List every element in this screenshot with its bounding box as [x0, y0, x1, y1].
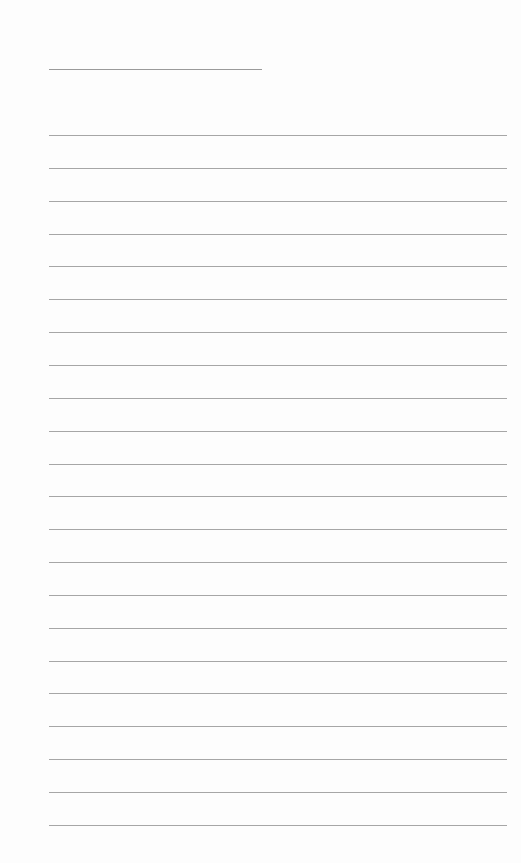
ruled-line	[49, 792, 507, 793]
ruled-line	[49, 496, 507, 497]
ruled-line	[49, 595, 507, 596]
ruled-line	[49, 266, 507, 267]
ruled-line	[49, 661, 507, 662]
ruled-line	[49, 464, 507, 465]
ruled-line	[49, 759, 507, 760]
ruled-line	[49, 168, 507, 169]
ruled-line	[49, 135, 507, 136]
title-line	[49, 69, 262, 70]
ruled-line	[49, 299, 507, 300]
ruled-line	[49, 332, 507, 333]
ruled-line	[49, 431, 507, 432]
ruled-line	[49, 529, 507, 530]
ruled-line	[49, 726, 507, 727]
ruled-line	[49, 693, 507, 694]
ruled-line	[49, 628, 507, 629]
ruled-line	[49, 562, 507, 563]
ruled-line	[49, 365, 507, 366]
ruled-line	[49, 201, 507, 202]
ruled-line	[49, 825, 507, 826]
ruled-line	[49, 234, 507, 235]
ruled-line	[49, 398, 507, 399]
